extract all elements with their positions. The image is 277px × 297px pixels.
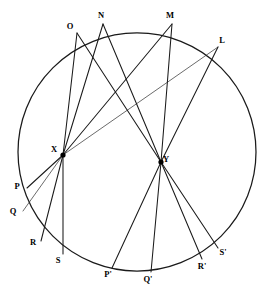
point-label-q: Q — [10, 206, 17, 216]
point-label-m: M — [166, 10, 174, 20]
hub-dot-x — [60, 152, 65, 157]
hub-dot-layer — [60, 152, 163, 164]
chord-X-R — [41, 155, 63, 241]
chord-Y-Rp — [161, 162, 202, 259]
chord-Y-L — [161, 47, 218, 162]
point-label-n: N — [98, 10, 105, 20]
point-label-s: S — [56, 255, 61, 265]
point-label-r: R — [30, 237, 37, 247]
point-label-p-prime: P' — [104, 269, 112, 279]
point-label-x: X — [51, 144, 58, 154]
point-label-r-prime: R' — [198, 261, 207, 271]
point-label-o: O — [67, 21, 74, 31]
point-label-s-prime: S' — [219, 247, 226, 257]
chord-Y-M — [161, 24, 172, 162]
point-label-l: L — [219, 35, 225, 45]
point-label-layer: ONMLPQRSP'Q'R'S'XY — [10, 10, 227, 284]
chord-X-M — [63, 24, 172, 155]
chord-X-L — [63, 47, 218, 155]
chord-X-P — [27, 155, 63, 188]
point-label-y: Y — [163, 154, 169, 164]
chord-X-O — [63, 33, 77, 155]
chord-X-N — [63, 24, 103, 155]
geometry-diagram: ONMLPQRSP'Q'R'S'XY — [0, 0, 277, 297]
chord-X-Q — [23, 155, 63, 211]
point-label-p: P — [14, 181, 19, 191]
point-label-q-prime: Q' — [144, 274, 153, 284]
chord-Y-Sp — [161, 162, 218, 248]
chord-Y-Qp — [151, 162, 161, 272]
figure-root: ONMLPQRSP'Q'R'S'XY — [0, 0, 277, 297]
chord-Y-Pp — [112, 162, 161, 268]
